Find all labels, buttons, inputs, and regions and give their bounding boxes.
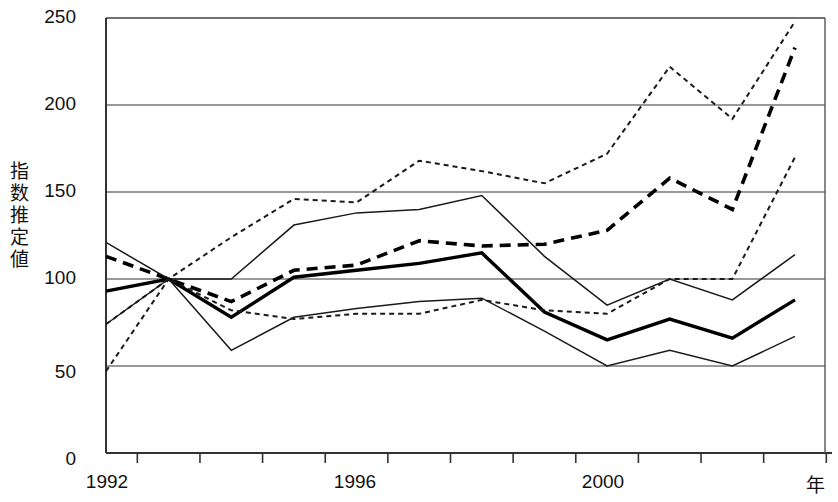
plot-area: [0, 0, 838, 502]
data-series-layer: [106, 21, 795, 371]
x-tick-marks: [137, 453, 826, 463]
gridlines: [106, 18, 825, 366]
chart-container: 指数推定値 250 200 150 100 50 0 1992 1996 200…: [0, 0, 838, 502]
series-line-series-1-fine-dotted-upper: [106, 21, 795, 371]
series-line-series-4-bold-solid: [106, 253, 795, 340]
axes: [106, 18, 832, 453]
series-line-series-3-thin-solid-upper: [106, 195, 795, 305]
